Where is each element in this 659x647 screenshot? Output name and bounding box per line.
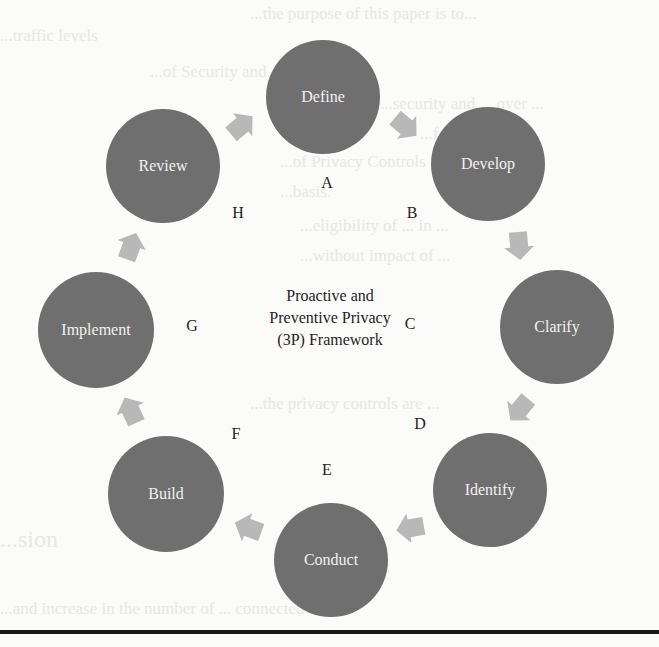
node-label-identify: Identify <box>432 480 548 500</box>
framework-title-line-3: (3P) Framework <box>225 329 435 351</box>
step-letter-d: D <box>410 414 430 434</box>
step-letter-g: G <box>182 316 202 336</box>
arrow-define-to-develop-icon <box>385 106 426 147</box>
arrow-identify-to-conduct-icon <box>394 511 427 545</box>
framework-title-line-1: Proactive and <box>225 285 435 307</box>
step-letter-e: E <box>317 460 337 480</box>
node-label-implement: Implement <box>38 320 154 340</box>
node-label-define: Define <box>265 87 381 107</box>
step-letter-a: A <box>317 173 337 193</box>
arrow-conduct-to-build-icon <box>230 509 267 547</box>
arrow-develop-to-clarify-icon <box>503 231 535 262</box>
step-letter-b: B <box>402 203 422 223</box>
framework-title-line-2: Preventive Privacy <box>225 307 435 329</box>
bottom-rule <box>0 630 659 634</box>
step-letter-h: H <box>228 203 248 223</box>
arrow-build-to-implement-icon <box>111 391 150 429</box>
framework-title: Proactive and Preventive Privacy (3P) Fr… <box>225 285 435 351</box>
node-label-develop: Develop <box>430 154 546 174</box>
arrow-clarify-to-identify-icon <box>499 389 540 430</box>
node-label-review: Review <box>105 156 221 176</box>
arrow-implement-to-review-icon <box>112 228 150 265</box>
step-letter-f: F <box>226 424 246 444</box>
arrow-review-to-define-icon <box>221 105 262 146</box>
node-label-build: Build <box>108 484 224 504</box>
node-label-clarify: Clarify <box>499 317 615 337</box>
node-label-conduct: Conduct <box>273 550 389 570</box>
